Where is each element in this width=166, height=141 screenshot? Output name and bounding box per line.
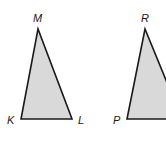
vertex-label-m: M bbox=[33, 12, 43, 24]
triangle-diagram: M K L R P bbox=[0, 0, 166, 141]
triangle-klm bbox=[21, 29, 72, 119]
triangle-pqr bbox=[127, 29, 166, 119]
diagram-svg: M K L R P bbox=[0, 0, 166, 141]
vertex-label-p: P bbox=[113, 114, 121, 126]
vertex-label-l: L bbox=[78, 114, 84, 126]
vertex-label-k: K bbox=[7, 114, 15, 126]
vertex-label-r: R bbox=[141, 12, 149, 24]
